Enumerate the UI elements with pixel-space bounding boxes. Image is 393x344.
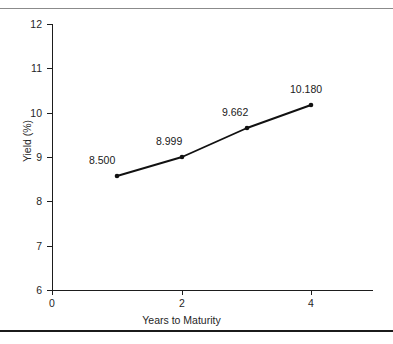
clipped-caption — [0, 0, 393, 7]
figure-rule-bottom — [0, 330, 393, 332]
data-label-3: 9.662 — [222, 107, 248, 118]
yield-curve-series — [0, 9, 393, 330]
figure-container: 6 7 8 9 10 11 12 0 2 4 Years to Maturity… — [0, 9, 393, 330]
data-label-1: 8.500 — [89, 155, 115, 166]
data-label-2: 8.999 — [156, 136, 182, 147]
data-label-4: 10.180 — [290, 84, 322, 95]
plot-area: 6 7 8 9 10 11 12 0 2 4 Years to Maturity… — [0, 9, 393, 330]
